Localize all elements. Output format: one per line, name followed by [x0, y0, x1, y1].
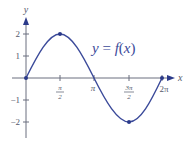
- x-axis-arrow-icon: [167, 75, 175, 81]
- xtick-pi-over-2-denominator: 2: [58, 93, 62, 101]
- point-origin: [24, 76, 28, 80]
- xtick-label-3pi-over-2: 3π 2: [124, 84, 134, 101]
- xtick-pi-over-2-numerator: π: [58, 84, 62, 92]
- xtick-label-pi-over-2: π 2: [56, 84, 64, 101]
- xtick-label-2pi: 2π: [159, 84, 169, 94]
- annotation-close-paren: ): [130, 40, 135, 57]
- y-axis-arrow-icon: [23, 17, 29, 25]
- point-maximum: [58, 32, 62, 36]
- y-axis-label: y: [23, 4, 29, 15]
- x-axis-label: x: [177, 72, 183, 83]
- ytick-label-minus-1: −1: [10, 95, 20, 105]
- ytick-label-minus-2: −2: [10, 117, 20, 127]
- sine-chart: 2 1 −1 −2 π 2 π 3π 2 2π y x y = f(x): [0, 0, 191, 144]
- annotation-equals: =: [99, 40, 115, 56]
- annotation-y: y: [90, 40, 99, 56]
- xtick-3pi-over-2-denominator: 2: [127, 93, 131, 101]
- point-minimum: [127, 120, 131, 124]
- xtick-label-pi: π: [91, 83, 96, 93]
- ytick-label-2: 2: [16, 29, 21, 39]
- function-annotation: y = f(x): [90, 40, 135, 57]
- xtick-3pi-over-2-numerator: 3π: [124, 84, 133, 92]
- point-end: [160, 76, 164, 80]
- ytick-label-1: 1: [16, 51, 21, 61]
